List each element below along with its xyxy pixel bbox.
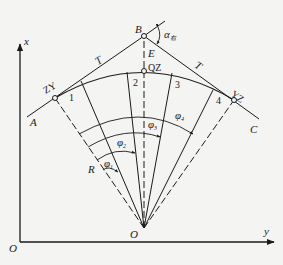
station-2-label: 2 [133,77,138,88]
tangent-extension [144,21,165,36]
point-zy [53,96,58,101]
origin-label: O [9,242,17,254]
radius-station-1 [81,81,144,228]
label-e: E [147,47,155,59]
station-1-label: 1 [69,92,74,103]
angle-phi4-label: φ4 [175,109,184,122]
angle-phi2-label: φ2 [117,136,126,149]
label-c: C [250,123,258,135]
radius-station-3 [144,73,172,228]
tangent-line-left [27,36,144,117]
angle-labels: φ1 φ2 φ3 φ4 [104,109,184,170]
deflection-arc [157,27,160,44]
label-radius: R [87,163,95,175]
deflection-angle: α右 [157,27,177,44]
circular-curve-diagram: x y O α右 B E Q [0,0,283,265]
tangent-line-right [144,36,259,119]
label-b: B [135,23,142,35]
point-qz [142,69,147,74]
radius-station-2 [127,72,144,228]
station-3-label: 3 [175,79,180,90]
x-axis-label: x [23,35,29,47]
deflection-angle-label: α右 [164,28,177,41]
label-yz: YZ [229,88,246,105]
angle-phi1-label: φ1 [104,157,113,170]
point-b [142,34,147,39]
station-4-label: 4 [216,95,221,106]
angle-arc-phi2 [97,151,135,160]
y-axis-label: y [263,225,269,237]
label-a: A [29,116,37,128]
label-qz: QZ [148,62,161,73]
label-zy: ZY [41,80,58,96]
label-center-o: O [130,228,138,240]
label-tangent-right: T [193,59,206,73]
angle-phi3-label: φ3 [148,118,157,131]
